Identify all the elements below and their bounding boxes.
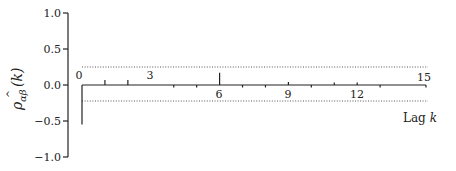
lag-label-9: 9: [285, 88, 292, 101]
lag-label-6: 6: [216, 88, 223, 101]
lag-label-3: 3: [147, 69, 154, 82]
y-tick-label: −0.5: [34, 115, 61, 128]
x-axis-label-variable: k: [430, 111, 437, 125]
y-tick-label: −1.0: [34, 151, 61, 164]
lag-label-15: 15: [417, 71, 431, 84]
x-axis-label: Lag k: [403, 111, 437, 125]
y-axis-label-hat: ^: [4, 90, 15, 98]
lag-label-0: 0: [76, 69, 83, 82]
x-axis-label-text: Lag: [403, 111, 430, 125]
y-axis-label-argument: (k): [9, 68, 25, 87]
y-axis-label-subscript: αβ: [17, 89, 28, 102]
y-tick-label: 0.0: [44, 79, 62, 92]
acf-chart: ^ ρ αβ (k) 1.0 0.5 0.0 −0.5 −1.0 0 3 6 9…: [0, 0, 456, 171]
y-tick-label: 0.5: [44, 43, 62, 56]
lag-label-12: 12: [350, 88, 364, 101]
y-tick-label: 1.0: [44, 7, 62, 20]
y-axis-label: ^ ρ αβ (k): [4, 68, 28, 111]
y-tick-labels: 1.0 0.5 0.0 −0.5 −1.0: [34, 7, 61, 164]
y-axis-ticks: [63, 13, 68, 157]
acf-bars: [82, 73, 426, 125]
